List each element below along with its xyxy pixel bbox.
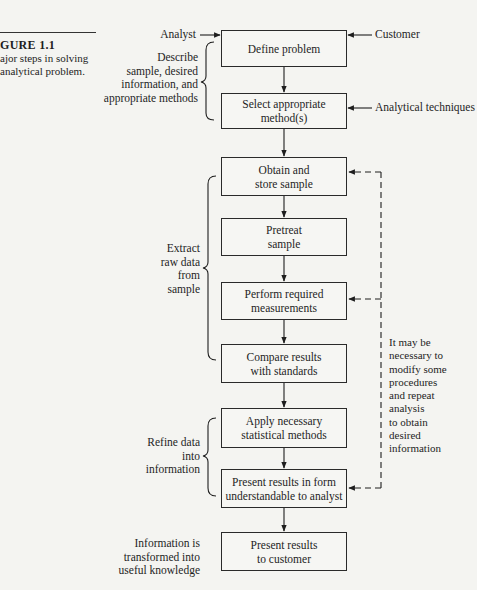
input-label-analyst: Analyst (130, 28, 196, 42)
step-select-methods: Select appropriate method(s) (221, 93, 347, 129)
feedback-note: It may be necessary to modify some proce… (389, 336, 477, 456)
brace-label-refine: Refine data into information (110, 436, 200, 477)
step-present-to-analyst: Present results in form understandable t… (221, 469, 347, 508)
step-perform-measurements: Perform required measurements (221, 282, 347, 320)
flowchart-figure: GURE 1.1 ajor steps in solving analytica… (0, 0, 477, 590)
brace-extract (203, 176, 216, 360)
brace-describe (201, 42, 214, 120)
step-pretreat-sample: Pretreat sample (221, 218, 347, 256)
step-statistical-methods: Apply necessary statistical methods (221, 408, 347, 448)
step-define-problem: Define problem (221, 30, 347, 67)
input-label-analytical-techniques: Analytical techniques (375, 101, 477, 115)
label-information-transformed: Information is transformed into useful k… (100, 537, 200, 578)
step-present-to-customer: Present results to customer (221, 532, 347, 571)
step-obtain-sample: Obtain and store sample (221, 157, 347, 196)
brace-label-describe: Describe sample, desired information, an… (84, 51, 198, 105)
brace-refine (203, 418, 216, 496)
input-label-customer: Customer (375, 28, 465, 42)
step-compare-results: Compare results with standards (221, 344, 347, 383)
brace-label-extract: Extract raw data from sample (120, 242, 200, 296)
